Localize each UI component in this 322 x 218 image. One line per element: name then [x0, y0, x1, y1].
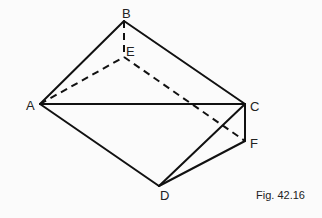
- figure-canvas: B E A C F D Fig. 42.16: [0, 0, 322, 218]
- edge-EF-dashed: [124, 57, 245, 141]
- edge-AE-dashed: [40, 57, 124, 104]
- label-D: D: [160, 188, 169, 203]
- label-B: B: [122, 6, 131, 21]
- label-A: A: [26, 98, 35, 113]
- edge-AD: [40, 104, 159, 186]
- figure-caption: Fig. 42.16: [256, 189, 305, 201]
- label-E: E: [126, 44, 135, 59]
- label-C: C: [250, 99, 259, 114]
- geometry-diagram: B E A C F D Fig. 42.16: [0, 0, 322, 218]
- label-F: F: [250, 136, 258, 151]
- edge-CD: [159, 104, 245, 186]
- edge-AB: [40, 21, 124, 104]
- edge-DF: [159, 141, 245, 186]
- edge-BC: [124, 21, 245, 104]
